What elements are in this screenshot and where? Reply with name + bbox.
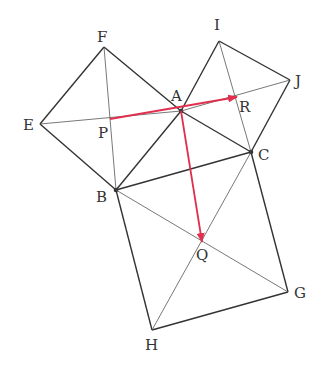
label-A: A	[170, 87, 182, 105]
edge-IJ	[219, 41, 290, 80]
label-I: I	[214, 16, 220, 34]
edge-HG	[152, 292, 288, 330]
edge-CA	[181, 111, 251, 152]
edge-BC	[116, 152, 251, 190]
edge-AB	[116, 111, 181, 190]
edge-BH	[116, 190, 152, 330]
vector-AQ	[181, 111, 202, 242]
edge-AF	[104, 47, 181, 111]
label-R: R	[239, 98, 251, 116]
vectors	[110, 97, 237, 242]
label-J: J	[293, 72, 301, 90]
square-edges	[40, 41, 290, 330]
edge-GC	[251, 152, 288, 292]
label-Q: Q	[196, 246, 208, 264]
geometry-diagram: FIJEAPRCBQGH	[0, 0, 328, 368]
edge-JC	[251, 80, 290, 152]
label-H: H	[145, 336, 158, 354]
label-P: P	[98, 124, 108, 142]
square-diagonals	[40, 41, 290, 330]
point-labels: FIJEAPRCBQGH	[23, 16, 306, 354]
label-E: E	[23, 116, 34, 134]
edge-FE	[40, 47, 104, 124]
label-F: F	[97, 28, 107, 46]
label-C: C	[258, 146, 269, 164]
label-B: B	[96, 188, 107, 206]
label-G: G	[294, 284, 306, 302]
diagonal-AJ	[181, 80, 290, 111]
